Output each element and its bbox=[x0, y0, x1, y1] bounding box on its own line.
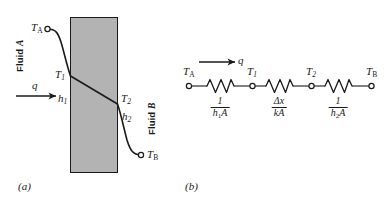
resistance-label-1: 1 h1A bbox=[211, 96, 230, 118]
panel-a-caption: (a) bbox=[18, 180, 31, 192]
label-tb-a: TB bbox=[147, 149, 158, 160]
resistor-1-symbol bbox=[207, 80, 234, 93]
panel-a-graphics bbox=[0, 0, 193, 201]
label-q-b: q bbox=[238, 55, 244, 66]
resistance-label-3: 1 h2A bbox=[329, 96, 348, 118]
label-t2-b: T2 bbox=[306, 66, 316, 77]
resistance-3-numerator: 1 bbox=[329, 96, 348, 108]
fluid-b-label: Fluid B bbox=[146, 103, 157, 135]
resistance-1-numerator: 1 bbox=[211, 96, 230, 108]
resistor-3-symbol bbox=[325, 80, 352, 93]
label-t1-a: T1 bbox=[55, 69, 65, 80]
label-ta-a: TA bbox=[31, 22, 43, 33]
resistance-label-2: Δx kA bbox=[272, 96, 287, 118]
resistance-2-denominator: kA bbox=[272, 108, 287, 119]
resistance-1-denominator: h1A bbox=[211, 108, 230, 119]
label-q-a: q bbox=[32, 80, 38, 91]
resistance-2-numerator: Δx bbox=[272, 96, 287, 108]
resistance-3-denominator: h2A bbox=[329, 108, 348, 119]
node-marker-t2 bbox=[309, 83, 314, 88]
label-h2: h2 bbox=[122, 111, 131, 122]
wall-slab bbox=[71, 18, 118, 173]
label-t2-a: T2 bbox=[121, 93, 131, 104]
panel-a-wall-temperature-profile: Fluid A Fluid B TA T1 T2 TB h1 h2 q (a) bbox=[0, 0, 193, 201]
node-marker-ta bbox=[186, 83, 191, 88]
panel-b-resistance-network: q TA T1 T2 TB 1 h1A Δx kA 1 h2A (b) bbox=[193, 0, 387, 201]
resistor-2-symbol bbox=[266, 80, 293, 93]
node-marker-t1 bbox=[250, 83, 255, 88]
label-tb-b: TB bbox=[366, 66, 377, 77]
node-marker-tb bbox=[369, 83, 374, 88]
figure-root: Fluid A Fluid B TA T1 T2 TB h1 h2 q (a) bbox=[0, 0, 387, 201]
label-t1-b: T1 bbox=[247, 66, 257, 77]
label-ta-b: TA bbox=[183, 66, 195, 77]
label-h1: h1 bbox=[58, 93, 67, 104]
panel-b-caption: (b) bbox=[185, 180, 198, 192]
marker-ta bbox=[45, 26, 50, 31]
fluid-a-label: Fluid A bbox=[14, 40, 25, 72]
marker-tb bbox=[138, 152, 143, 157]
